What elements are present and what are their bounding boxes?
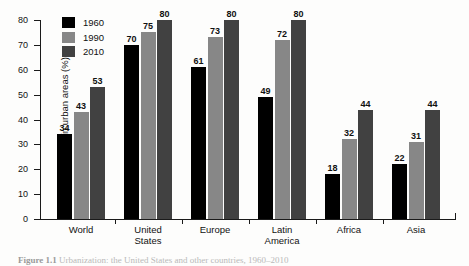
legend-label: 1990 [83, 32, 104, 43]
legend-item: 2010 [62, 46, 104, 57]
x-axis-tick-mark [383, 219, 384, 224]
x-axis-tick-mark [182, 219, 183, 224]
bar-value-label: 43 [76, 101, 86, 111]
y-axis-tick-label: 60 [18, 65, 28, 75]
x-axis-tick-mark [249, 219, 250, 224]
legend-swatch [62, 46, 75, 57]
bar: 32 [342, 139, 357, 219]
x-axis-category-label: World [45, 224, 117, 235]
bar: 72 [275, 40, 290, 219]
bar: 34 [57, 134, 72, 219]
bar-value-label: 53 [92, 76, 102, 86]
x-axis-category-label: Asia [380, 224, 452, 235]
bar-value-label: 18 [327, 163, 337, 173]
bar: 80 [157, 20, 172, 219]
x-axis-tick-mark [115, 219, 116, 224]
bar-value-label: 72 [277, 29, 287, 39]
bar: 53 [90, 87, 105, 219]
legend-swatch [62, 17, 75, 28]
bar-value-label: 44 [360, 99, 370, 109]
x-axis-end-tick [455, 213, 456, 220]
bar-value-label: 34 [59, 123, 69, 133]
bar-value-label: 22 [394, 153, 404, 163]
bar: 80 [224, 20, 239, 219]
legend-label: 2010 [83, 46, 104, 57]
bar-value-label: 49 [260, 86, 270, 96]
bar: 80 [291, 20, 306, 219]
y-axis-tick-label: 10 [18, 189, 28, 199]
legend-swatch [62, 32, 75, 43]
bar: 75 [141, 32, 156, 219]
bar: 22 [392, 164, 407, 219]
bar: 44 [425, 110, 440, 219]
figure-caption-label: Figure 1.1 [18, 255, 57, 265]
x-axis-tick-mark [316, 219, 317, 224]
bar: 18 [325, 174, 340, 219]
figure-caption: Figure 1.1 Urbanization: the United Stat… [18, 255, 458, 265]
bar: 44 [358, 110, 373, 219]
bar: 61 [191, 67, 206, 219]
bar: 31 [409, 142, 424, 219]
y-axis-tick-label: 80 [18, 15, 28, 25]
x-axis-category-label: Europe [179, 224, 251, 235]
bar-value-label: 75 [143, 21, 153, 31]
bar: 43 [74, 112, 89, 219]
y-axis-tick-label: 40 [18, 115, 28, 125]
legend-item: 1990 [62, 32, 104, 43]
y-axis-tick-label: 30 [18, 139, 28, 149]
y-axis-tick-mark [34, 219, 40, 220]
bar-value-label: 80 [293, 9, 303, 19]
legend-label: 1960 [83, 17, 104, 28]
y-axis-tick-label: 20 [18, 164, 28, 174]
y-axis-tick-label: 0 [23, 214, 28, 224]
bar-value-label: 73 [210, 26, 220, 36]
chart-legend: 196019902010 [62, 17, 104, 61]
bar-value-label: 80 [226, 9, 236, 19]
bar-value-label: 80 [159, 9, 169, 19]
bar: 70 [124, 45, 139, 219]
bar-value-label: 61 [193, 56, 203, 66]
bar: 73 [208, 37, 223, 219]
y-axis-tick-label: 50 [18, 90, 28, 100]
y-axis-tick-label: 70 [18, 40, 28, 50]
x-axis-category-label: Africa [313, 224, 385, 235]
figure-caption-text: Urbanization: the United States and othe… [59, 255, 288, 265]
bar-value-label: 44 [427, 99, 437, 109]
x-axis-category-label: Latin America [246, 224, 318, 246]
bar-value-label: 31 [411, 131, 421, 141]
bar-value-label: 32 [344, 128, 354, 138]
figure-container: Population in urban areas (%) 0102030405… [0, 0, 469, 266]
bar: 49 [258, 97, 273, 219]
legend-item: 1960 [62, 17, 104, 28]
x-axis-category-label: United States [112, 224, 184, 246]
bar-value-label: 70 [126, 34, 136, 44]
